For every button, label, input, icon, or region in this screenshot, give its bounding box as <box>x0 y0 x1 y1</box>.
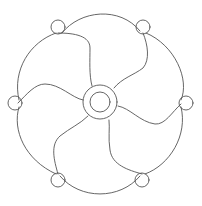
outer-arc-lower-left <box>17 107 56 174</box>
hub-inner-ring <box>90 92 110 112</box>
rim-circle-bottom-left <box>51 173 65 187</box>
rim-circle-top-right <box>136 20 150 34</box>
outer-arc-upper-right <box>146 33 184 100</box>
blade-edge-left <box>18 84 83 103</box>
blade-edge-bottom-left <box>54 116 88 174</box>
outer-arcs <box>17 14 183 194</box>
blade-edges <box>18 33 181 174</box>
fan-drawing <box>0 0 202 206</box>
blade-edge-bottom-right <box>109 120 142 174</box>
rim-circle-bottom-right <box>135 173 149 187</box>
blade-edge-top-left <box>58 33 92 86</box>
outer-arc-top <box>62 14 140 33</box>
rim-circle-right <box>179 96 193 110</box>
rim-circle-left <box>8 96 22 110</box>
fan-illustration <box>0 0 202 206</box>
outer-arc-lower-right <box>145 107 183 174</box>
blade-edge-right <box>118 104 181 124</box>
rim-circle-top-left <box>51 20 65 34</box>
hub-outer-ring <box>83 85 117 119</box>
outer-arc-bottom <box>60 176 140 194</box>
hub <box>83 85 117 119</box>
outer-arc-upper-left <box>17 33 56 100</box>
blade-edge-top-right <box>114 33 148 88</box>
